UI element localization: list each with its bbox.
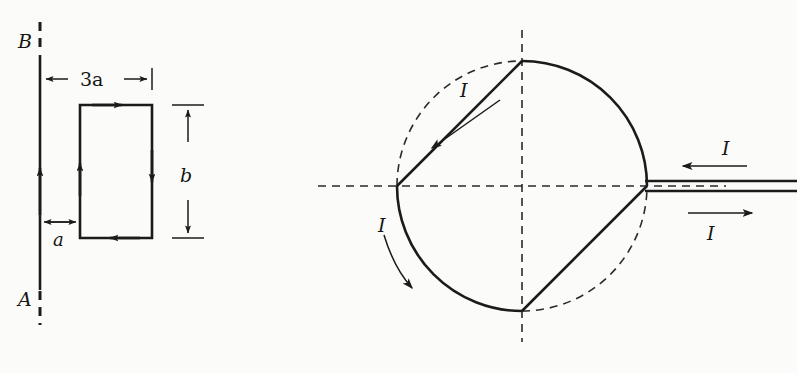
- current-arrow-lower-left: [384, 235, 412, 288]
- loop-chord-lower-right: [522, 186, 647, 311]
- current-label-lead-upper: I: [721, 137, 730, 159]
- loop-arc-bottom-left: [397, 186, 522, 311]
- dim-a-label: a: [53, 229, 64, 250]
- loop-arc-top-right: [522, 61, 647, 186]
- current-label-upper-left: I: [459, 79, 468, 101]
- rectangular-loop: [80, 105, 152, 238]
- current-label-lead-lower: I: [706, 222, 715, 244]
- wire-label-a: A: [16, 288, 32, 310]
- dim-3a-label: 3a: [80, 68, 103, 90]
- right-panel-group: I I I I: [318, 30, 797, 342]
- figure-canvas: B A 3a a b: [0, 0, 797, 373]
- left-panel-group: B A 3a a b: [16, 22, 204, 325]
- wire-label-b: B: [17, 30, 32, 52]
- dim-b-label: b: [180, 164, 192, 186]
- current-label-lower-left: I: [377, 214, 386, 236]
- current-arrow-upper-left: [432, 100, 500, 148]
- physics-diagram-svg: B A 3a a b: [0, 0, 797, 373]
